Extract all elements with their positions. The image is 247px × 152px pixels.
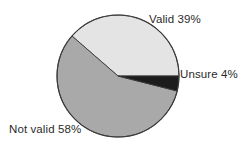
pie-label-unsure: Unsure 4% [180,68,238,81]
pie-chart-figure: Valid 39% Unsure 4% Not valid 58% [0,0,247,152]
pie-label-valid: Valid 39% [149,13,201,26]
pie-label-not-valid: Not valid 58% [9,123,81,136]
pie-slices [57,15,179,137]
